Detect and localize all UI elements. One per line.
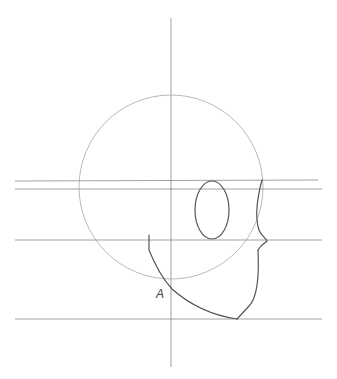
brow-line-top [15,180,318,181]
ear-oval [195,181,229,239]
jaw-front [237,250,258,319]
jaw-back [149,235,237,319]
sketch-canvas: A [0,0,337,379]
point-a-label: A [155,287,164,301]
